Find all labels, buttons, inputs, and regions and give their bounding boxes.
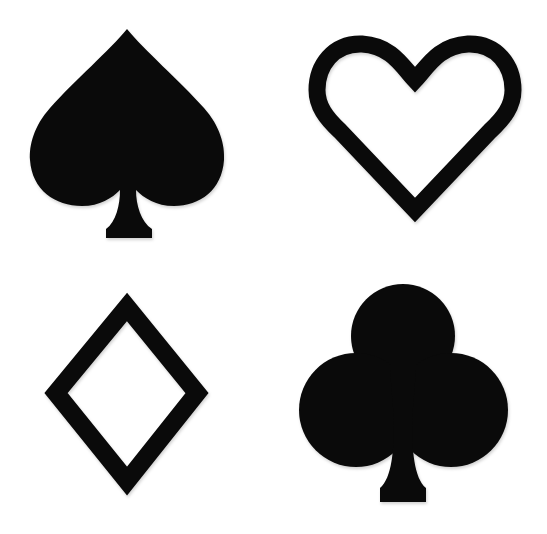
suit-icons-canvas: Card suit icons Spade Heart Diamond Club [0, 0, 547, 534]
suits-svg: Spade Heart Diamond Club [0, 0, 547, 534]
diamond-icon: Diamond [56, 307, 197, 481]
spade-icon: Spade [30, 29, 224, 238]
heart-icon: Heart [317, 44, 513, 210]
club-icon: Club [299, 284, 508, 502]
